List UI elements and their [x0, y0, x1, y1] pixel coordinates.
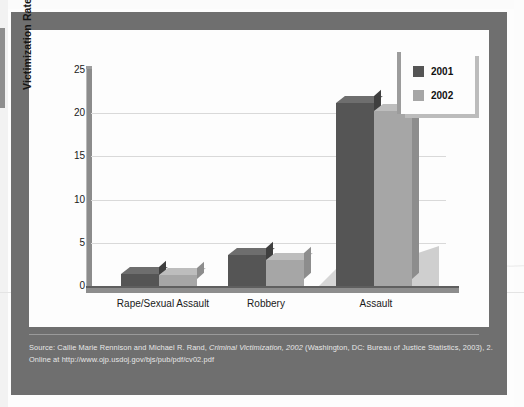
y-tick-label: 25: [59, 64, 85, 75]
bar-front-face: [336, 103, 374, 286]
y-tick-label: 5: [59, 237, 85, 248]
legend-label-2002: 2002: [431, 90, 453, 101]
bar-2001-rape-sexual-assault[interactable]: [121, 274, 159, 286]
legend-item-2001[interactable]: 2001: [413, 66, 453, 77]
legend-label-2001: 2001: [431, 66, 453, 77]
bar-side-face: [412, 98, 419, 279]
source-footnote: Source: Callie Marie Rennison and Michae…: [29, 342, 493, 386]
bar-front-face: [266, 260, 304, 286]
legend-item-2002[interactable]: 2002: [413, 90, 453, 101]
y-axis-cap: [86, 66, 92, 69]
figure-frame: Victimization Rate per 1,000 Households …: [11, 12, 507, 395]
chart-legend[interactable]: 2001 2002: [397, 52, 471, 114]
bar-2002-assault[interactable]: [374, 111, 412, 286]
footnote-line-1: Source: Callie Marie Rennison and Michae…: [29, 342, 493, 354]
bar-front-face: [374, 111, 412, 286]
x-tick-label-assault: Assault: [316, 298, 436, 309]
footnote-text-b: (Washington, DC: Bureau of Justice Stati…: [303, 343, 493, 352]
bar-2002-robbery[interactable]: [266, 260, 304, 286]
footnote-divider: [29, 334, 479, 335]
legend-shadow-bottom: [405, 114, 479, 118]
scan-artifact-left-dark: [0, 28, 5, 108]
bar-side-face: [197, 262, 204, 279]
footnote-text-a: Source: Callie Marie Rennison and Michae…: [29, 343, 209, 352]
plot-area: Rape/Sexual Assault Robbery Assault: [91, 70, 446, 286]
plot-floor-edge: [86, 286, 459, 288]
bar-2001-assault[interactable]: [336, 103, 374, 286]
footnote-line-2: Online at http://www.ojp.usdoj.gov/bjs/p…: [29, 354, 493, 366]
y-axis-ticks: 25 20 15 10 5 0: [55, 30, 85, 270]
y-tick-label: 0: [59, 280, 85, 291]
bar-2001-robbery[interactable]: [228, 255, 266, 286]
y-axis-line: [86, 67, 92, 289]
scan-artifact-right: [514, 0, 524, 407]
y-axis-title: Victimization Rate per 1,000 Households: [21, 0, 33, 90]
screenshot-page: Victimization Rate per 1,000 Households …: [0, 0, 524, 407]
x-tick-label-robbery: Robbery: [206, 298, 326, 309]
legend-swatch-2002: [413, 90, 424, 101]
footnote-title-italic: Criminal Victimization, 2002: [209, 343, 303, 352]
chart-panel: Victimization Rate per 1,000 Households …: [29, 30, 489, 327]
scan-artifact-top: [0, 0, 524, 9]
bar-side-face: [304, 247, 311, 279]
y-tick-label: 20: [59, 107, 85, 118]
y-tick-label: 10: [59, 194, 85, 205]
bar-front-face: [121, 274, 159, 286]
legend-swatch-2001: [413, 66, 424, 77]
bar-front-face: [159, 275, 197, 286]
bar-front-face: [228, 255, 266, 286]
bar-2002-rape-sexual-assault[interactable]: [159, 275, 197, 286]
legend-shadow-right: [475, 56, 479, 118]
y-tick-label: 15: [59, 150, 85, 161]
